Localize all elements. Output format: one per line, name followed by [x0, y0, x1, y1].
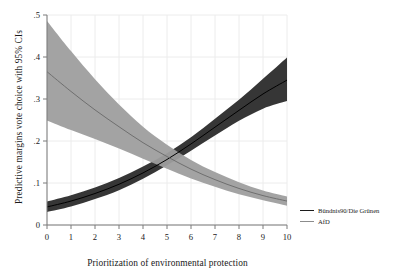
legend-item-afd: AfD: [300, 216, 379, 227]
svg-text:10: 10: [283, 232, 292, 242]
svg-text:2: 2: [93, 232, 97, 242]
svg-text:.3: .3: [34, 94, 40, 104]
legend-label: Bündnis90/Die Grünen: [318, 205, 379, 216]
plot-area: 012345678910 0.1.2.3.4.5 Predictive marg…: [0, 0, 395, 277]
chart-root: 012345678910 0.1.2.3.4.5 Predictive marg…: [0, 0, 395, 277]
svg-text:1: 1: [69, 232, 73, 242]
svg-text:6: 6: [189, 232, 194, 242]
svg-text:.4: .4: [34, 52, 41, 62]
svg-text:.2: .2: [34, 136, 40, 146]
svg-text:0: 0: [36, 220, 40, 230]
svg-text:8: 8: [237, 232, 241, 242]
x-axis-label: Prioritization of environmental protecti…: [47, 258, 288, 268]
legend-swatch-icon: [300, 210, 314, 211]
svg-text:4: 4: [141, 232, 146, 242]
y-axis-ticks: 0.1.2.3.4.5: [34, 10, 47, 230]
legend-swatch-icon: [300, 221, 314, 222]
y-axis-label: Predictive margins vote choice with 95% …: [14, 2, 24, 232]
legend-item-gruenen: Bündnis90/Die Grünen: [300, 205, 379, 216]
chart-legend: Bündnis90/Die GrünenAfD: [300, 205, 379, 227]
x-axis-ticks: 012345678910: [45, 225, 291, 242]
svg-text:0: 0: [45, 232, 49, 242]
svg-text:.1: .1: [34, 178, 40, 188]
chart-canvas: 012345678910 0.1.2.3.4.5: [0, 0, 395, 277]
svg-text:5: 5: [165, 232, 169, 242]
svg-text:3: 3: [117, 232, 121, 242]
svg-text:7: 7: [213, 232, 218, 242]
svg-text:.5: .5: [34, 10, 40, 20]
legend-label: AfD: [318, 216, 330, 227]
svg-text:9: 9: [261, 232, 265, 242]
